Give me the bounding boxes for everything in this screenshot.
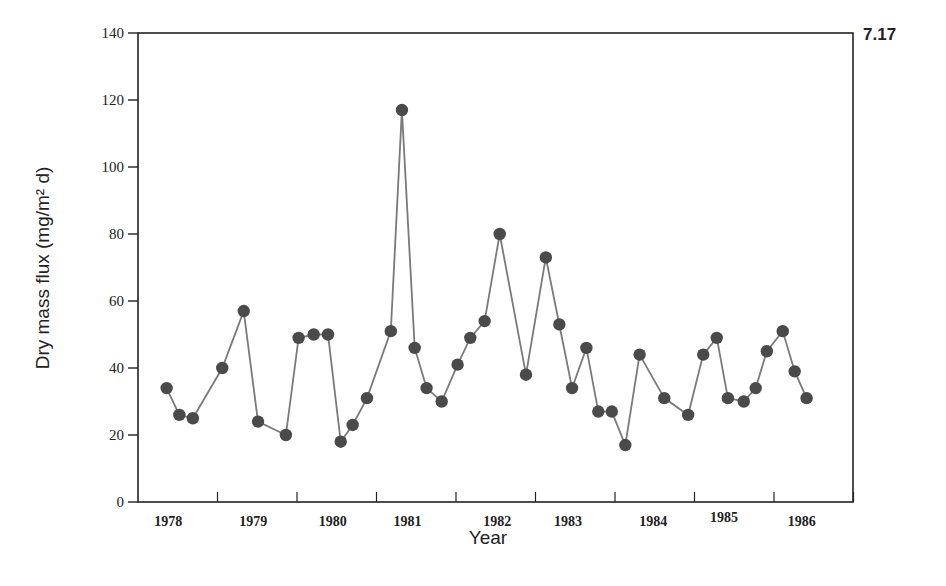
x-tick-label: 1985 [710, 510, 738, 525]
x-tick-label: 1986 [788, 514, 816, 529]
x-tick-label: 1979 [239, 514, 267, 529]
x-tick-label: 1981 [394, 514, 422, 529]
data-point-marker [238, 305, 250, 317]
data-point-marker [800, 392, 812, 404]
line-chart: 020406080100120140 197819791980198119821… [0, 0, 946, 586]
data-point-marker [761, 345, 773, 357]
data-point-marker [478, 315, 490, 327]
y-tick-label: 20 [109, 427, 124, 443]
x-tick-label: 1984 [639, 514, 667, 529]
data-point-marker [494, 228, 506, 240]
series-line [167, 110, 807, 445]
data-point-marker [173, 409, 185, 421]
y-axis-ticks: 020406080100120140 [102, 25, 139, 510]
y-tick-label: 80 [109, 226, 124, 242]
data-point-marker [322, 328, 334, 340]
data-point-marker [777, 325, 789, 337]
data-point-marker [738, 395, 750, 407]
y-axis-title: Dry mass flux (mg/m² d) [32, 167, 53, 370]
data-point-marker [788, 365, 800, 377]
plot-frame [138, 33, 853, 502]
data-point-marker [566, 382, 578, 394]
data-point-marker [711, 332, 723, 344]
x-tick-label: 1978 [154, 514, 182, 529]
x-tick-label: 1980 [319, 514, 347, 529]
plot-area [138, 33, 853, 502]
y-tick-label: 120 [102, 92, 125, 108]
data-point-marker [520, 369, 532, 381]
x-axis-title: Year [469, 527, 508, 548]
data-point-marker [160, 382, 172, 394]
data-point-marker [187, 412, 199, 424]
data-point-marker [280, 429, 292, 441]
x-axis-ticks: 197819791980198119821983198419851986 [154, 492, 853, 529]
data-point-marker [658, 392, 670, 404]
y-tick-label: 60 [109, 293, 124, 309]
data-point-marker [633, 348, 645, 360]
data-point-marker [540, 251, 552, 263]
data-point-marker [682, 409, 694, 421]
data-point-marker [464, 332, 476, 344]
data-point-marker [307, 328, 319, 340]
data-point-marker [592, 405, 604, 417]
data-point-marker [606, 405, 618, 417]
data-point-marker [451, 358, 463, 370]
data-point-marker [335, 436, 347, 448]
data-point-marker [361, 392, 373, 404]
figure-number: 7.17 [863, 25, 896, 44]
data-point-marker [292, 332, 304, 344]
data-point-marker [396, 104, 408, 116]
y-tick-label: 40 [109, 360, 124, 376]
data-point-marker [346, 419, 358, 431]
y-tick-label: 140 [102, 25, 125, 41]
data-point-marker [252, 415, 264, 427]
data-point-marker [750, 382, 762, 394]
y-tick-label: 100 [102, 159, 125, 175]
data-point-marker [619, 439, 631, 451]
data-point-marker [216, 362, 228, 374]
data-point-marker [435, 395, 447, 407]
data-series [160, 104, 812, 451]
data-point-marker [722, 392, 734, 404]
data-point-marker [385, 325, 397, 337]
y-tick-label: 0 [117, 494, 125, 510]
data-point-marker [420, 382, 432, 394]
data-point-marker [697, 348, 709, 360]
data-point-marker [553, 318, 565, 330]
x-tick-label: 1983 [554, 514, 582, 529]
data-point-marker [580, 342, 592, 354]
data-point-marker [408, 342, 420, 354]
